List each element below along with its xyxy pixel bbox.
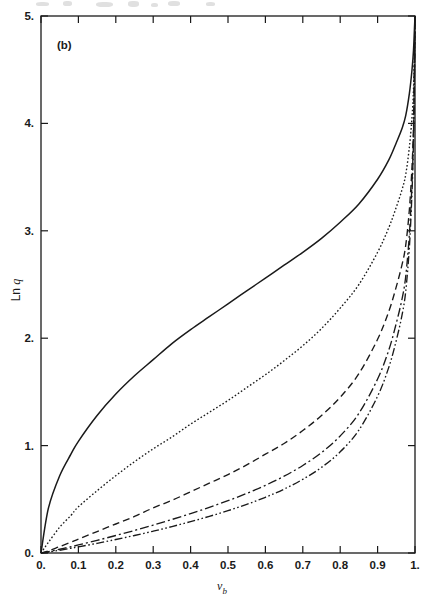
x-axis-title-subscript: b xyxy=(222,586,227,596)
svg-text:Ln q: Ln q xyxy=(9,279,23,302)
x-tick-label: 1. xyxy=(410,559,420,571)
x-tick-label: 0.4 xyxy=(183,559,200,571)
x-tick-labels: 0.0.10.20.30.40.50.60.70.80.91. xyxy=(36,559,420,571)
data-curves xyxy=(41,16,415,553)
x-tick-label: 0. xyxy=(36,559,46,571)
x-tick-label: 0.1 xyxy=(70,559,87,571)
x-tick-label: 0.3 xyxy=(145,559,161,571)
svg-text:vb: vb xyxy=(217,579,227,596)
y-axis-title: Ln q xyxy=(9,279,23,302)
x-tick-label: 0.7 xyxy=(295,559,311,571)
y-tick-label: 5. xyxy=(24,10,34,22)
y-axis-title-base: Ln xyxy=(9,285,23,302)
panel-label: (b) xyxy=(57,39,72,51)
y-tick-label: 4. xyxy=(24,117,34,129)
x-tick-label: 0.9 xyxy=(370,559,386,571)
x-tick-label: 0.6 xyxy=(257,559,273,571)
y-axis-title-italic: q xyxy=(9,279,23,285)
y-tick-label: 2. xyxy=(24,332,34,344)
y-tick-labels: 0.1.2.3.4.5. xyxy=(24,10,34,559)
y-tick-label: 0. xyxy=(24,547,34,559)
x-tick-label: 0.2 xyxy=(108,559,124,571)
x-axis-title: vb xyxy=(217,579,227,596)
y-tick-label: 3. xyxy=(24,225,34,237)
curve-dotted xyxy=(41,16,415,553)
x-tick-label: 0.5 xyxy=(220,559,237,571)
y-tick-label: 1. xyxy=(24,440,34,452)
x-tick-label: 0.8 xyxy=(332,559,349,571)
figure-panel-b: 0.0.10.20.30.40.50.60.70.80.91. 0.1.2.3.… xyxy=(0,0,430,599)
chart-canvas: 0.0.10.20.30.40.50.60.70.80.91. 0.1.2.3.… xyxy=(0,0,430,599)
